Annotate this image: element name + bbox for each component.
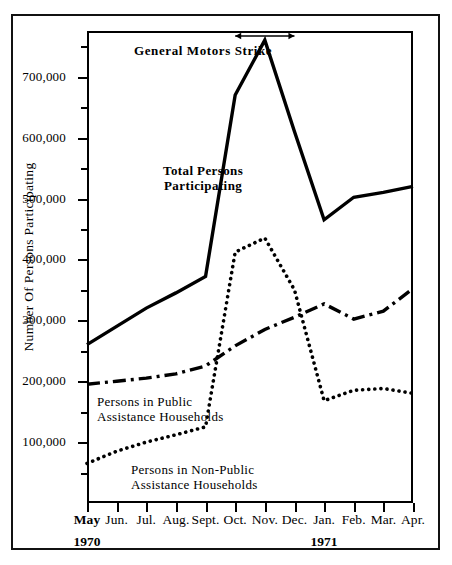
x-tick-label-jul: Jul. (137, 512, 157, 528)
x-tick-label-feb: Feb. (342, 512, 366, 528)
x-tick (413, 503, 415, 512)
y-tick-major (78, 381, 87, 383)
x-tick-label-oct: Oct. (224, 512, 247, 528)
x-tick (295, 503, 297, 512)
x-tick (146, 503, 148, 512)
annotation-total-persons-line2: Participating (163, 179, 243, 194)
y-tick-label: 700,000 (22, 69, 66, 85)
y-tick-major (78, 138, 87, 140)
series-layer (87, 31, 413, 503)
x-tick-label-dec: Dec. (282, 512, 308, 528)
y-tick-label: 600,000 (22, 130, 66, 146)
series-line-2 (87, 238, 413, 463)
chart-figure: Number Of Persons Participating 100,0002… (0, 0, 452, 565)
x-tick-label-may: May (74, 512, 101, 528)
x-tick (265, 503, 267, 512)
x-tick (87, 503, 89, 512)
x-tick (235, 503, 237, 512)
x-tick-label-apr: Apr. (401, 512, 425, 528)
annotation-public-assistance: Persons in Public Assistance Households (97, 395, 224, 424)
annotation-non-public-assistance-line2: Assistance Households (131, 478, 258, 493)
x-tick (176, 503, 178, 512)
annotation-total-persons: Total Persons Participating (163, 164, 243, 193)
annotation-public-assistance-line1: Persons in Public (97, 395, 224, 410)
y-tick-label: 500,000 (22, 191, 66, 207)
y-tick-minor (81, 351, 87, 353)
x-tick-label-nov: Nov. (252, 512, 278, 528)
plot-area: General Motors Strike Total Persons Part… (87, 31, 413, 503)
y-axis-tick-labels: Number Of Persons Participating 100,0002… (0, 31, 80, 503)
annotation-public-assistance-line2: Assistance Households (97, 410, 224, 425)
y-tick-minor (81, 107, 87, 109)
y-tick-label: 400,000 (22, 251, 66, 267)
x-tick (206, 503, 208, 512)
y-tick-minor (81, 290, 87, 292)
x-tick-label-jan: Jan. (313, 512, 335, 528)
x-tick (117, 503, 119, 512)
x-tick (354, 503, 356, 512)
annotation-non-public-assistance-line1: Persons in Non-Public (131, 463, 258, 478)
y-tick-label: 200,000 (22, 373, 66, 389)
y-tick-major (78, 259, 87, 261)
y-tick-label: 300,000 (22, 312, 66, 328)
year-label-1970: 1970 (74, 534, 101, 550)
y-tick-label: 100,000 (22, 434, 66, 450)
x-tick-label-mar: Mar. (371, 512, 397, 528)
y-tick-major (78, 442, 87, 444)
y-tick-major (78, 199, 87, 201)
y-tick-minor (81, 473, 87, 475)
x-axis-year-labels: 19701971 (87, 534, 413, 554)
x-tick (324, 503, 326, 512)
x-axis-tick-labels: MayJun.Jul.Aug.Sept.Oct.Nov.Dec.Jan.Feb.… (87, 512, 413, 532)
y-tick-major (78, 77, 87, 79)
y-tick-major (78, 320, 87, 322)
strike-arrow-head-0 (235, 33, 241, 39)
x-tick-label-aug: Aug. (162, 512, 189, 528)
x-tick (383, 503, 385, 512)
x-tick-label-jun: Jun. (105, 512, 128, 528)
strike-arrow-head-1 (288, 33, 294, 39)
y-tick-minor (81, 229, 87, 231)
series-line-0 (87, 40, 413, 345)
annotation-total-persons-line1: Total Persons (163, 164, 243, 179)
y-tick-minor (81, 412, 87, 414)
x-tick-label-sept: Sept. (192, 512, 220, 528)
y-tick-minor (81, 168, 87, 170)
y-tick-minor (81, 46, 87, 48)
annotation-general-motors-strike: General Motors Strike (134, 44, 272, 59)
series-line-1 (87, 289, 413, 385)
year-label-1971: 1971 (311, 534, 338, 550)
annotation-non-public-assistance: Persons in Non-Public Assistance Househo… (131, 463, 258, 492)
